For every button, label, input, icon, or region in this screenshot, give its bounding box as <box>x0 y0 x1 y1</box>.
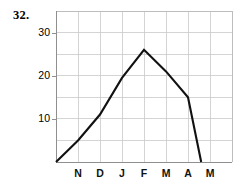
y-tick-mark-10 <box>52 119 56 120</box>
y-tick-label-20: 20 <box>26 70 50 81</box>
plot-area <box>56 11 232 162</box>
series-path <box>56 50 201 162</box>
x-tick-label-4: M <box>158 168 174 179</box>
problem-number-label: 32. <box>13 8 29 22</box>
y-tick-mark-30 <box>52 33 56 34</box>
x-tick-label-1: D <box>92 168 108 179</box>
x-tick-label-3: F <box>136 168 152 179</box>
y-tick-mark-20 <box>52 76 56 77</box>
x-tick-label-2: J <box>114 168 130 179</box>
x-tick-label-0: N <box>70 168 86 179</box>
y-tick-label-30: 30 <box>26 27 50 38</box>
y-tick-label-10: 10 <box>26 113 50 124</box>
x-tick-label-5: A <box>180 168 196 179</box>
x-tick-label-6: M <box>202 168 218 179</box>
chart-figure: 32. 102030 NDJFMAM <box>0 0 252 191</box>
chart-data-line <box>56 11 232 162</box>
